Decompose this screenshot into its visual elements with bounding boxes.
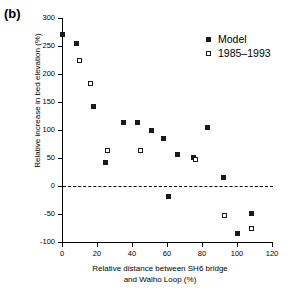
x-tick <box>132 243 133 247</box>
data-point <box>60 32 65 37</box>
legend-label: 1985–1993 <box>218 47 271 59</box>
y-tick-label: 100 <box>29 125 55 134</box>
data-point <box>77 58 82 63</box>
x-tick-label: 0 <box>49 249 75 258</box>
y-tick <box>58 46 62 47</box>
x-axis-label-line2: and Waiho Loop (%) <box>40 274 280 285</box>
y-tick-label: 0 <box>29 181 55 190</box>
data-point <box>138 148 143 153</box>
zero-reference-line <box>63 186 273 187</box>
data-point <box>249 211 254 216</box>
data-point <box>249 226 254 231</box>
y-tick <box>58 186 62 187</box>
x-tick <box>237 243 238 247</box>
legend-item-model: Model <box>206 32 271 46</box>
data-point <box>166 194 171 199</box>
x-tick-label: 60 <box>154 249 180 258</box>
data-point <box>222 213 227 218</box>
x-axis-label: Relative distance between SH6 bridge and… <box>40 263 280 285</box>
y-tick-label: 250 <box>29 41 55 50</box>
data-point <box>193 157 198 162</box>
x-tick <box>97 243 98 247</box>
legend-label: Model <box>218 33 247 45</box>
y-tick <box>58 214 62 215</box>
x-tick-label: 120 <box>259 249 285 258</box>
x-tick <box>167 243 168 247</box>
data-point <box>105 148 110 153</box>
legend: Model 1985–1993 <box>206 32 271 60</box>
data-point <box>88 81 93 86</box>
y-axis-line <box>62 18 63 243</box>
legend-item-observed: 1985–1993 <box>206 46 271 60</box>
data-point <box>91 104 96 109</box>
data-point <box>103 160 108 165</box>
y-tick-label: -100 <box>29 237 55 246</box>
y-tick <box>58 18 62 19</box>
y-tick <box>58 102 62 103</box>
x-tick-label: 100 <box>224 249 250 258</box>
data-point <box>161 136 166 141</box>
x-tick-label: 20 <box>84 249 110 258</box>
y-tick <box>58 74 62 75</box>
x-tick-label: 80 <box>189 249 215 258</box>
data-point <box>74 41 79 46</box>
y-tick <box>58 130 62 131</box>
y-tick-label: 200 <box>29 69 55 78</box>
data-point <box>205 125 210 130</box>
x-axis-label-line1: Relative distance between SH6 bridge <box>40 263 280 274</box>
figure-panel: (b) Relative increase in bed elevation (… <box>0 0 301 293</box>
data-point <box>175 152 180 157</box>
x-tick <box>202 243 203 247</box>
y-tick-label: 300 <box>29 13 55 22</box>
data-point <box>135 120 140 125</box>
open-square-icon <box>206 51 211 56</box>
data-point <box>149 128 154 133</box>
data-point <box>121 120 126 125</box>
x-tick-label: 40 <box>119 249 145 258</box>
y-tick-label: 50 <box>29 153 55 162</box>
data-point <box>235 231 240 236</box>
data-point <box>221 175 226 180</box>
y-tick <box>58 158 62 159</box>
x-tick <box>272 243 273 247</box>
y-tick-label: 150 <box>29 97 55 106</box>
x-tick <box>62 243 63 247</box>
y-tick-label: -50 <box>29 209 55 218</box>
filled-square-icon <box>206 37 211 42</box>
panel-label: (b) <box>4 6 21 21</box>
